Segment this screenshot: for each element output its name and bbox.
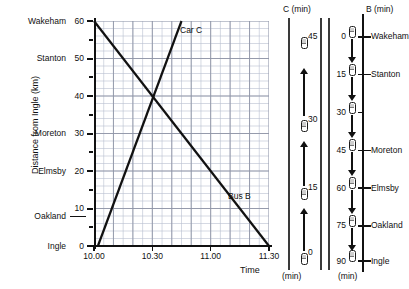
strip-b-time-label: 75 bbox=[332, 221, 346, 230]
strip-b-place-leader bbox=[364, 225, 371, 226]
series-lines bbox=[94, 21, 269, 246]
series-label-car-c: Car C bbox=[180, 26, 202, 35]
strip-b-place-label-elmsby: Elmsby bbox=[371, 184, 399, 193]
strip-b-time-label: 30 bbox=[332, 108, 346, 117]
y-tick bbox=[89, 76, 93, 78]
plot-area bbox=[94, 21, 269, 246]
y-tick bbox=[89, 39, 93, 41]
place-label-wakeham: Wakeham bbox=[8, 17, 66, 26]
travel-graph-figure: Distance from Ingle (km) 6050403020100 W… bbox=[0, 0, 409, 289]
y-tick bbox=[89, 189, 93, 191]
y-tick-label: 0 bbox=[68, 242, 84, 251]
strip-b-time-label: 45 bbox=[332, 146, 346, 155]
y-tick-label: 50 bbox=[68, 54, 84, 63]
strip-b-arrow-head-down bbox=[348, 132, 356, 138]
place-label-oakland: Oakland bbox=[8, 212, 66, 221]
y-tick-label: 20 bbox=[68, 167, 84, 176]
strip-b-arrow-head-down bbox=[348, 170, 356, 176]
strip-b-time-label: 90 bbox=[332, 257, 346, 266]
place-label-stanton: Stanton bbox=[8, 54, 66, 63]
strip-b-place-leader bbox=[364, 74, 371, 75]
strip-c-rail-right bbox=[320, 18, 322, 270]
strip-b-place-label-moreton: Moreton bbox=[371, 146, 402, 155]
strip-b-place-leader bbox=[364, 187, 371, 188]
oakland-leader-line bbox=[70, 216, 86, 217]
strip-b-bus-icon bbox=[349, 102, 356, 114]
strip-b-arrow-shaft bbox=[351, 39, 353, 59]
strip-b-bus-icon bbox=[349, 215, 356, 227]
strip-b-place-label-stanton: Stanton bbox=[371, 70, 400, 79]
y-tick bbox=[87, 58, 93, 60]
strip-c-arrow-head-up bbox=[300, 141, 308, 147]
strip-b-place-leader bbox=[364, 150, 371, 151]
y-tick bbox=[89, 151, 93, 153]
strip-b-tick bbox=[358, 187, 363, 189]
y-tick-label: 10 bbox=[68, 204, 84, 213]
series-label-bus-b: Bus B bbox=[228, 192, 251, 201]
strip-b-time-label: 15 bbox=[332, 70, 346, 79]
y-tick bbox=[89, 226, 93, 228]
y-tick bbox=[87, 170, 93, 172]
x-tick-label: 11.00 bbox=[191, 252, 231, 261]
x-axis-line bbox=[93, 245, 272, 247]
strip-c-bus-icon bbox=[301, 188, 308, 200]
strip-b-arrow-head-down bbox=[348, 57, 356, 63]
x-axis-title: Time bbox=[240, 266, 260, 275]
strip-b-tick bbox=[358, 112, 363, 114]
strip-c-rail-left bbox=[288, 18, 290, 270]
place-label-elmsby: Elmsby bbox=[8, 167, 66, 176]
strip-c-arrow-shaft bbox=[303, 73, 305, 116]
strip-c-header: C (min) bbox=[283, 5, 311, 14]
strip-c-time-label: 0 bbox=[308, 248, 313, 257]
strip-c-bus-icon bbox=[301, 37, 308, 49]
strip-b-arrow-head-down bbox=[348, 95, 356, 101]
y-tick-label: 30 bbox=[68, 129, 84, 138]
strip-b-tick bbox=[358, 150, 363, 152]
strip-c-time-label: 15 bbox=[308, 183, 317, 192]
place-label-moreton: Moreton bbox=[8, 129, 66, 138]
series-line-car-c bbox=[98, 21, 182, 246]
y-axis-line bbox=[94, 18, 96, 249]
x-tick-label: 10.30 bbox=[132, 252, 172, 261]
y-tick bbox=[87, 20, 93, 22]
strip-b-place-label-ingle: Ingle bbox=[371, 257, 389, 266]
strip-b-time-label: 0 bbox=[332, 32, 346, 41]
strip-b-place-label-wakeham: Wakeham bbox=[371, 32, 409, 41]
series-line-bus-b bbox=[94, 21, 269, 246]
strip-c-arrow-head-up bbox=[300, 68, 308, 74]
strip-b-bus-icon bbox=[349, 139, 356, 151]
strip-b-bus-icon bbox=[349, 177, 356, 189]
x-tick-label: 10.00 bbox=[74, 252, 114, 261]
y-tick bbox=[89, 114, 93, 116]
strip-c-bus-icon bbox=[301, 120, 308, 132]
strip-b-tick bbox=[358, 260, 363, 262]
strip-c-bus-icon bbox=[301, 253, 308, 265]
strip-c-arrow-shaft bbox=[303, 146, 305, 185]
place-label-ingle: Ingle bbox=[8, 242, 66, 251]
x-tick-label: 11.30 bbox=[249, 252, 289, 261]
strip-b-place-leader bbox=[364, 260, 371, 261]
strip-b-arrow-head-down bbox=[348, 208, 356, 214]
strip-b-place-label-oakland: Oakland bbox=[371, 221, 403, 230]
strip-b-header: B (min) bbox=[366, 5, 393, 14]
strip-b-time-label: 60 bbox=[332, 184, 346, 193]
y-tick-label: 60 bbox=[68, 17, 84, 26]
strip-b-arrow-shaft bbox=[351, 77, 353, 97]
strip-b-place-leader bbox=[364, 36, 371, 37]
strip-b-bus-icon bbox=[349, 26, 356, 38]
strip-b-arrow-shaft bbox=[351, 190, 353, 210]
strip-c-time-label: 30 bbox=[308, 115, 317, 124]
strip-b-footer: (min) bbox=[338, 272, 357, 281]
strip-c-arrow-head-up bbox=[300, 208, 308, 214]
strip-c-arrow-shaft bbox=[303, 213, 305, 251]
strip-b-bus-icon bbox=[349, 250, 356, 262]
y-tick bbox=[87, 95, 93, 97]
strip-c-footer: (min) bbox=[282, 272, 301, 281]
strip-b-bus-icon bbox=[349, 64, 356, 76]
strip-b-axis bbox=[362, 14, 364, 272]
strip-b-tick bbox=[358, 36, 363, 38]
y-tick-label: 40 bbox=[68, 92, 84, 101]
strip-b-rail-left bbox=[328, 18, 330, 270]
strip-b-tick bbox=[358, 225, 363, 227]
strip-c-time-label: 45 bbox=[308, 32, 317, 41]
